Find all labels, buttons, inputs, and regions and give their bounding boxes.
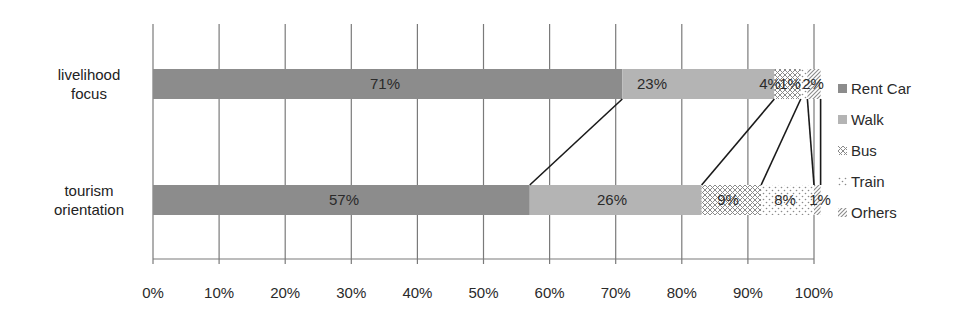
category-label-line: focus bbox=[24, 84, 154, 103]
stacked-bar-chart: 71%23%4%1%2%57%26%9%8%1% bbox=[0, 0, 974, 315]
series-connector-line bbox=[702, 99, 775, 185]
legend-label: Orhers bbox=[851, 204, 897, 221]
series-connector-line bbox=[530, 99, 623, 185]
gridlines bbox=[153, 24, 814, 264]
value-label: 26% bbox=[597, 191, 627, 208]
x-tick-label: 50% bbox=[454, 284, 514, 301]
x-tick-label: 0% bbox=[123, 284, 183, 301]
category-label-line: livelihood bbox=[24, 65, 154, 84]
legend-swatch-icon bbox=[838, 177, 847, 186]
category-label-tourism-orientation: tourism orientation bbox=[24, 181, 154, 219]
value-label: 9% bbox=[717, 191, 739, 208]
legend-item: Orhers bbox=[838, 202, 911, 223]
legend-swatch-icon bbox=[838, 146, 847, 155]
x-tick-label: 30% bbox=[321, 284, 381, 301]
legend-swatch-icon bbox=[838, 115, 847, 124]
value-label: 23% bbox=[637, 75, 667, 92]
series-connector-line bbox=[761, 99, 801, 185]
value-label: 57% bbox=[329, 191, 359, 208]
category-label-line: tourism bbox=[24, 181, 154, 200]
value-label: 71% bbox=[370, 75, 400, 92]
x-tick-label: 70% bbox=[586, 284, 646, 301]
value-label: 1% bbox=[779, 75, 801, 92]
legend-item: Walk bbox=[838, 109, 911, 130]
x-tick-label: 40% bbox=[387, 284, 447, 301]
x-tick-label: 90% bbox=[718, 284, 778, 301]
series-lines bbox=[530, 99, 821, 185]
x-tick-label: 10% bbox=[189, 284, 249, 301]
legend-item: Bus bbox=[838, 140, 911, 161]
category-label-livelihood-focus: livelihood focus bbox=[24, 65, 154, 103]
value-label: 2% bbox=[802, 75, 824, 92]
legend-item: Rent Car bbox=[838, 78, 911, 99]
legend-label: Rent Car bbox=[851, 80, 911, 97]
legend-swatch-icon bbox=[838, 208, 847, 217]
value-label: 4% bbox=[759, 75, 781, 92]
legend-item: Train bbox=[838, 171, 911, 192]
series-connector-line bbox=[807, 99, 814, 185]
x-tick-label: 20% bbox=[255, 284, 315, 301]
x-tick-label: 80% bbox=[652, 284, 712, 301]
legend-label: Walk bbox=[851, 111, 884, 128]
category-label-line: orientation bbox=[24, 200, 154, 219]
x-tick-label: 100% bbox=[784, 284, 844, 301]
value-label: 1% bbox=[809, 191, 831, 208]
x-tick-label: 60% bbox=[520, 284, 580, 301]
legend: Rent CarWalkBusTrainOrhers bbox=[838, 78, 911, 233]
legend-label: Train bbox=[851, 173, 885, 190]
value-label: 8% bbox=[774, 191, 796, 208]
legend-label: Bus bbox=[851, 142, 877, 159]
legend-swatch-icon bbox=[838, 84, 847, 93]
